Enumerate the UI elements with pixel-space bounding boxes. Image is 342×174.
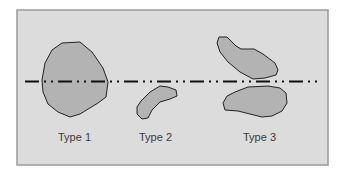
- type-3-label: Type 3: [243, 131, 276, 143]
- type-1-label: Type 1: [58, 131, 91, 143]
- type-2-label: Type 2: [139, 131, 172, 143]
- shape-types-diagram: Type 1 Type 2 Type 3: [0, 0, 342, 174]
